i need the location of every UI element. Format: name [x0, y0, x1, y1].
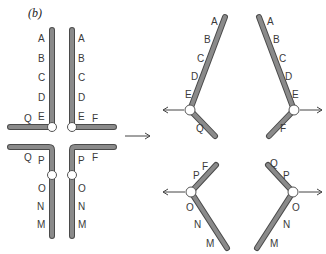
label-p-left: P — [38, 155, 45, 166]
hinge-icon — [186, 187, 196, 197]
label-c-right: C — [78, 72, 85, 83]
label-q-tl: Q — [196, 123, 204, 134]
label-n-br: N — [283, 219, 290, 230]
label-q-top: Q — [24, 113, 32, 124]
label-b-right: B — [78, 53, 85, 64]
initial-bottom-right-strand — [68, 147, 115, 236]
label-a-tr: A — [267, 16, 274, 27]
label-p-right: P — [78, 155, 85, 166]
label-e-tl: E — [185, 89, 192, 100]
label-n-right: N — [78, 201, 85, 212]
label-d-left: D — [38, 92, 45, 103]
label-o-bl: O — [186, 202, 194, 213]
label-f-tr: F — [280, 123, 286, 134]
label-o-left: O — [38, 183, 46, 194]
panel-label: (b) — [28, 6, 42, 20]
initial-bottom-left-strand — [10, 147, 57, 236]
label-m-right: M — [78, 219, 86, 230]
label-e-left: E — [38, 111, 45, 122]
label-m-br: M — [270, 238, 278, 249]
label-f-bottom: F — [92, 152, 98, 163]
label-o-br: O — [292, 202, 300, 213]
label-e-tr: E — [292, 89, 299, 100]
label-b-left: B — [38, 53, 45, 64]
label-o-right: O — [78, 183, 86, 194]
hinge-icon — [185, 105, 195, 115]
label-a-right: A — [78, 33, 85, 44]
label-b-tl: B — [204, 34, 211, 45]
label-q-br: Q — [270, 158, 278, 169]
hinge-icon — [289, 105, 299, 115]
hinge-icon — [68, 123, 77, 132]
hinge-icon — [68, 171, 77, 180]
label-c-tr: C — [279, 53, 286, 64]
initial-top-right-strand — [68, 30, 115, 132]
transition-arrow-icon — [125, 133, 150, 139]
label-n-bl: N — [194, 219, 201, 230]
label-c-tl: C — [197, 53, 204, 64]
label-p-br: P — [283, 170, 290, 181]
label-a-left: A — [38, 33, 45, 44]
label-d-tl: D — [191, 71, 198, 82]
hinge-icon — [48, 123, 57, 132]
label-m-bl: M — [206, 238, 214, 249]
label-n-left: N — [37, 201, 44, 212]
label-e-right: E — [78, 111, 85, 122]
label-p-bl: P — [193, 170, 200, 181]
diagram-canvas: (b) A B C D E Q A B C D E F Q P O N M P … — [0, 0, 326, 254]
label-a-tl: A — [211, 16, 218, 27]
label-c-left: C — [38, 72, 45, 83]
label-b-tr: B — [273, 34, 280, 45]
label-d-tr: D — [285, 71, 292, 82]
label-q-bottom: Q — [24, 152, 32, 163]
initial-top-left-strand — [10, 30, 57, 132]
hinge-icon — [288, 187, 298, 197]
hinge-icon — [48, 171, 57, 180]
label-m-left: M — [37, 219, 45, 230]
label-d-right: D — [78, 92, 85, 103]
label-f-bl: F — [202, 161, 208, 172]
label-f-top: F — [92, 113, 98, 124]
